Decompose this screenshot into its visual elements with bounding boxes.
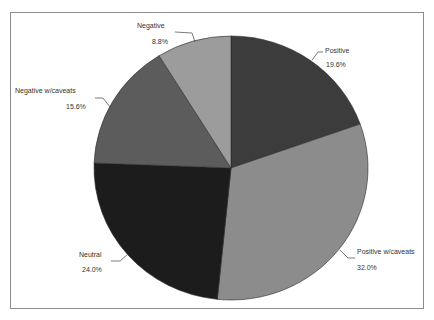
leader-positive-caveats bbox=[340, 250, 355, 258]
label-positive-pct: 19.6% bbox=[326, 61, 346, 68]
leader-neutral bbox=[111, 255, 127, 261]
leader-negative-caveats bbox=[95, 98, 110, 107]
slice-neutral bbox=[94, 163, 231, 299]
pie-chart bbox=[0, 0, 434, 320]
label-positive-caveats-name: Positive w/caveats bbox=[357, 248, 415, 255]
label-neutral-pct: 24.0% bbox=[82, 266, 102, 273]
label-negative-caveats-name: Negative w/caveats bbox=[15, 87, 76, 94]
leader-negative bbox=[175, 32, 195, 42]
label-negative-caveats-pct: 15.6% bbox=[66, 103, 86, 110]
label-positive-name: Positive bbox=[325, 47, 350, 54]
label-negative-pct: 8.8% bbox=[152, 38, 168, 45]
leader-positive bbox=[312, 52, 323, 60]
label-negative-name: Negative bbox=[137, 22, 165, 29]
label-neutral-name: Neutral bbox=[79, 251, 102, 258]
label-positive-caveats-pct: 32.0% bbox=[357, 264, 377, 271]
